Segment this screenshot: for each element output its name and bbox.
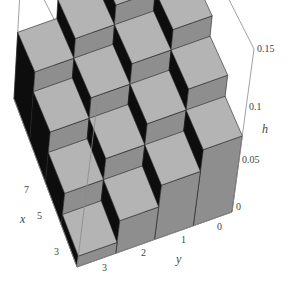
h-tick-0.15: 0.15 bbox=[257, 43, 275, 54]
y-tick-1: 1 bbox=[181, 234, 186, 245]
y-tick-3: 3 bbox=[102, 262, 107, 273]
bars-group bbox=[14, 0, 242, 267]
y-tick-2: 2 bbox=[141, 247, 146, 258]
x-tick-5: 5 bbox=[37, 210, 42, 221]
y-tick-0: 0 bbox=[217, 221, 222, 232]
y-axis-label: y bbox=[175, 252, 182, 266]
h-tick-0: 0 bbox=[236, 201, 241, 212]
h-axis-label: h bbox=[262, 122, 268, 136]
bar3d-chart: 0.15 0.1 h 0.05 0 0 1 2 3 y 3 5 7 x bbox=[0, 0, 288, 285]
h-tick-0.05: 0.05 bbox=[242, 154, 260, 165]
h-tick-0.1: 0.1 bbox=[249, 101, 262, 112]
x-tick-3: 3 bbox=[54, 246, 59, 257]
x-axis-label: x bbox=[19, 212, 26, 226]
x-tick-7: 7 bbox=[24, 184, 29, 195]
